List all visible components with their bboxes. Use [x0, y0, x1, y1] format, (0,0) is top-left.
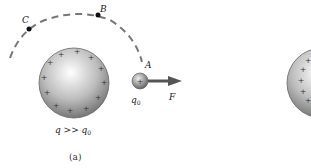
svg-text:+: + [98, 64, 105, 73]
svg-text:+: + [47, 58, 54, 67]
large-charged-sphere: +++ +++ +++ +++ [39, 47, 109, 118]
panel-label: (a) [69, 152, 81, 162]
second-panel-sphere: +++ ++ [287, 48, 311, 118]
force-arrow [148, 76, 182, 86]
svg-text:+: + [101, 78, 108, 87]
svg-text:+: + [41, 73, 48, 82]
large-charge-label: q >> q0 [55, 125, 91, 136]
label-b: B [99, 4, 107, 14]
svg-text:+: + [298, 76, 305, 85]
electrostatics-diagram: C B A +++ +++ +++ +++ + F q0 q >> q0 (a)… [0, 0, 311, 168]
label-a: A [144, 60, 152, 70]
svg-text:+: + [95, 93, 102, 102]
svg-text:+: + [67, 106, 74, 115]
svg-text:+: + [53, 101, 60, 110]
svg-text:+: + [83, 104, 90, 113]
svg-text:+: + [300, 87, 307, 96]
point-c [27, 27, 32, 32]
svg-text:+: + [74, 47, 81, 56]
svg-text:+: + [58, 50, 65, 59]
svg-text:+: + [300, 65, 307, 74]
test-charge-label: q0 [131, 95, 141, 106]
svg-text:+: + [44, 88, 51, 97]
svg-text:+: + [137, 77, 144, 86]
svg-text:+: + [305, 96, 311, 105]
force-label: F [168, 92, 176, 102]
label-c: C [22, 15, 29, 25]
test-charge: + [132, 73, 148, 89]
svg-text:+: + [88, 53, 95, 62]
svg-text:+: + [305, 56, 311, 65]
